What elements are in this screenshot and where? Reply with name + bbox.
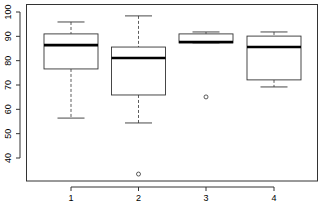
outlier-point <box>204 95 208 99</box>
iqr-box <box>44 34 98 69</box>
y-tick-label: 40 <box>3 153 13 163</box>
y-axis: 405060708090100 <box>3 4 20 163</box>
box-4 <box>247 32 301 87</box>
box-2 <box>112 16 166 176</box>
x-axis: 1234 <box>68 187 276 203</box>
boxes-group <box>44 16 301 176</box>
plot-frame <box>27 5 318 182</box>
box-3 <box>179 32 233 99</box>
y-tick-label: 90 <box>3 31 13 41</box>
y-tick-label: 100 <box>3 4 13 19</box>
x-tick-label: 1 <box>68 193 73 203</box>
iqr-box <box>247 36 301 80</box>
y-tick-label: 80 <box>3 56 13 66</box>
x-tick-label: 2 <box>136 193 141 203</box>
x-tick-label: 4 <box>271 193 276 203</box>
x-tick-label: 3 <box>203 193 208 203</box>
y-tick-label: 60 <box>3 104 13 114</box>
outlier-point <box>137 172 141 176</box>
iqr-box <box>112 47 166 95</box>
box-1 <box>44 22 98 118</box>
box-plot: 405060708090100 1234 <box>0 0 324 214</box>
y-tick-label: 70 <box>3 80 13 90</box>
y-tick-label: 50 <box>3 129 13 139</box>
